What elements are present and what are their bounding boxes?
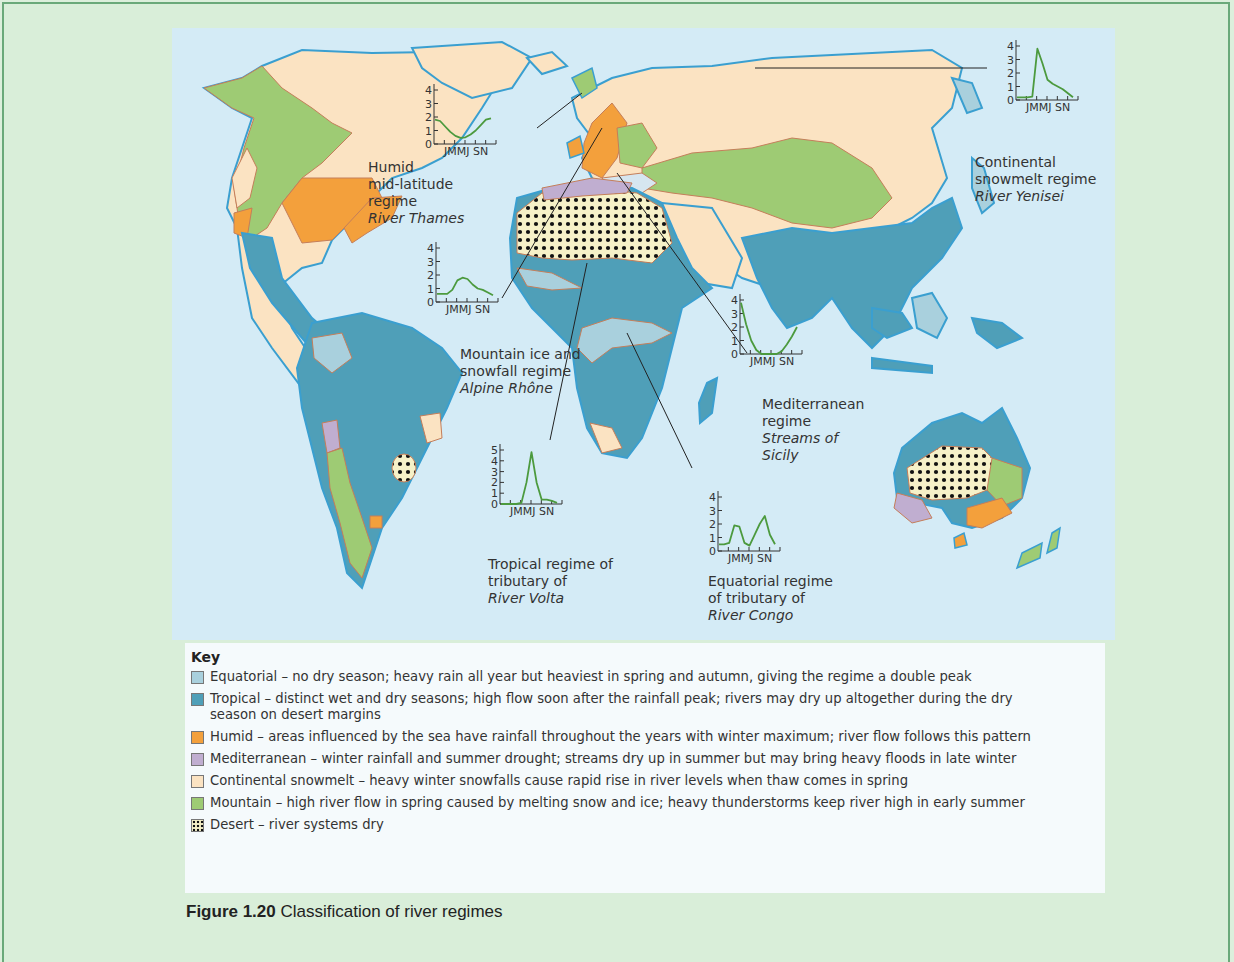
key-text-tropical: Tropical – distinct wet and dry seasons;…	[210, 691, 1040, 723]
hydrograph-volta: 012345JMMJ SN	[484, 436, 568, 530]
key-item-continental: Continental snowmelt – heavy winter snow…	[191, 773, 1099, 789]
svg-text:0: 0	[731, 348, 738, 361]
continental-swatch-icon	[191, 775, 204, 788]
label-thames-line1: Humid	[368, 159, 464, 176]
hydrograph-rhone: 01234JMMJ SN	[420, 234, 504, 328]
svg-text:2: 2	[427, 269, 434, 282]
label-volta-river: River Volta	[488, 590, 613, 607]
label-congo-river: River Congo	[708, 607, 833, 624]
label-sicily-river-1: Streams of	[762, 430, 864, 447]
svg-text:4: 4	[709, 491, 716, 504]
label-sicily: Mediterranean regime Streams of Sicily	[762, 396, 864, 464]
humid-swatch-icon	[191, 731, 204, 744]
equatorial-swatch-icon	[191, 671, 204, 684]
desert-swatch-icon	[191, 819, 204, 832]
svg-text:1: 1	[731, 335, 738, 348]
key-text-equatorial: Equatorial – no dry season; heavy rain a…	[210, 669, 972, 685]
key-item-tropical: Tropical – distinct wet and dry seasons;…	[191, 691, 1099, 723]
svg-text:2: 2	[425, 111, 432, 124]
svg-text:5: 5	[491, 444, 498, 457]
map-key: Key Equatorial – no dry season; heavy ra…	[185, 643, 1105, 893]
hydrograph-thames: 01234JMMJ SN	[418, 76, 502, 170]
key-item-desert: Desert – river systems dry	[191, 817, 1099, 833]
svg-text:4: 4	[1007, 40, 1014, 53]
label-yenisei-line1: Continental	[975, 154, 1096, 171]
label-rhone-line2: snowfall regime	[460, 363, 581, 380]
key-item-mediterranean: Mediterranean – winter rainfall and summ…	[191, 751, 1099, 767]
hydrograph-yenisei: 01234JMMJ SN	[1000, 32, 1084, 126]
label-rhone-river: Alpine Rhône	[460, 380, 581, 397]
key-text-desert: Desert – river systems dry	[210, 817, 384, 833]
label-volta: Tropical regime of tributary of River Vo…	[488, 556, 613, 607]
label-volta-line1: Tropical regime of	[488, 556, 613, 573]
svg-text:0: 0	[427, 296, 434, 309]
key-text-mediterranean: Mediterranean – winter rainfall and summ…	[210, 751, 1016, 767]
label-rhone-line1: Mountain ice and	[460, 346, 581, 363]
label-thames: Humid mid-latitude regime River Thames	[368, 159, 464, 227]
svg-text:3: 3	[427, 256, 434, 269]
svg-text:1: 1	[427, 283, 434, 296]
key-item-mountain: Mountain – high river flow in spring cau…	[191, 795, 1099, 811]
key-text-mountain: Mountain – high river flow in spring cau…	[210, 795, 1025, 811]
label-thames-river: River Thames	[368, 210, 464, 227]
label-volta-line2: tributary of	[488, 573, 613, 590]
figure-title: Classification of river regimes	[281, 902, 503, 921]
label-sicily-line1: Mediterranean	[762, 396, 864, 413]
label-thames-line2: mid-latitude	[368, 176, 464, 193]
svg-text:JMMJ SN: JMMJ SN	[749, 355, 794, 368]
svg-text:0: 0	[1007, 94, 1014, 107]
svg-text:2: 2	[1007, 67, 1014, 80]
label-yenisei-line2: snowmelt regime	[975, 171, 1096, 188]
hydrograph-sicily: 01234JMMJ SN	[724, 286, 808, 380]
key-item-equatorial: Equatorial – no dry season; heavy rain a…	[191, 669, 1099, 685]
svg-text:2: 2	[731, 321, 738, 334]
label-rhone: Mountain ice and snowfall regime Alpine …	[460, 346, 581, 397]
figure-caption: Figure 1.20 Classification of river regi…	[186, 902, 503, 922]
svg-text:JMMJ SN: JMMJ SN	[1025, 101, 1070, 114]
key-item-humid: Humid – areas influenced by the sea have…	[191, 729, 1099, 745]
svg-text:JMMJ SN: JMMJ SN	[727, 552, 772, 565]
svg-text:3: 3	[731, 308, 738, 321]
svg-text:4: 4	[731, 294, 738, 307]
world-map-panel: 01234JMMJ SN 01234JMMJ SN 01234JMMJ SN 0…	[172, 28, 1115, 640]
label-thames-line3: regime	[368, 193, 464, 210]
world-map	[172, 28, 1115, 640]
svg-text:3: 3	[709, 505, 716, 518]
label-yenisei-river: River Yenisei	[975, 188, 1096, 205]
svg-text:3: 3	[425, 98, 432, 111]
key-title: Key	[191, 649, 1099, 665]
svg-text:JMMJ SN: JMMJ SN	[443, 145, 488, 158]
svg-text:0: 0	[425, 138, 432, 151]
label-congo-line2: of tributary of	[708, 590, 833, 607]
hydrograph-congo: 01234JMMJ SN	[702, 483, 786, 577]
svg-text:4: 4	[425, 84, 432, 97]
svg-text:3: 3	[1007, 54, 1014, 67]
svg-text:1: 1	[1007, 81, 1014, 94]
svg-text:JMMJ SN: JMMJ SN	[509, 505, 554, 518]
label-yenisei: Continental snowmelt regime River Yenise…	[975, 154, 1096, 205]
svg-text:2: 2	[709, 518, 716, 531]
label-congo-line1: Equatorial regime	[708, 573, 833, 590]
label-sicily-river-2: Sicily	[762, 447, 864, 464]
label-congo: Equatorial regime of tributary of River …	[708, 573, 833, 624]
key-text-continental: Continental snowmelt – heavy winter snow…	[210, 773, 908, 789]
key-text-humid: Humid – areas influenced by the sea have…	[210, 729, 1031, 745]
mediterranean-swatch-icon	[191, 753, 204, 766]
figure-number: Figure 1.20	[186, 902, 276, 921]
label-sicily-line2: regime	[762, 413, 864, 430]
mountain-swatch-icon	[191, 797, 204, 810]
tropical-swatch-icon	[191, 693, 204, 706]
svg-text:4: 4	[427, 242, 434, 255]
svg-text:1: 1	[709, 532, 716, 545]
svg-text:JMMJ SN: JMMJ SN	[445, 303, 490, 316]
svg-text:0: 0	[709, 545, 716, 558]
svg-text:1: 1	[425, 125, 432, 138]
